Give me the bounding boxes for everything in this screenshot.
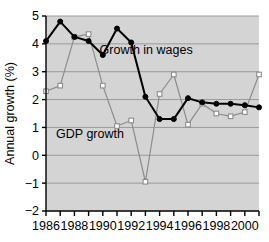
data-point (228, 101, 233, 106)
y-tick-label-0: 0 (32, 149, 39, 163)
y-tick-label-3: 3 (32, 65, 39, 79)
data-point (86, 32, 91, 37)
y-tick-label-5: 5 (32, 9, 39, 23)
data-point (257, 105, 262, 110)
y-tick-label-1: 1 (32, 121, 39, 135)
y-tick-group: −2−1012345 (25, 9, 46, 218)
chart-figure: −2−1012345 19861988199019921994199619982… (0, 0, 269, 242)
data-point (172, 72, 177, 77)
data-point (200, 100, 205, 105)
data-point (171, 117, 176, 122)
series-label-gdp-growth: GDP growth (56, 127, 124, 141)
data-point (214, 101, 219, 106)
data-point (243, 110, 248, 115)
x-tick-label-1996: 1996 (174, 219, 202, 233)
x-tick-label-1986: 1986 (32, 219, 60, 233)
data-point (58, 19, 63, 24)
x-tick-group: 19861988199019921994199619982000 (32, 211, 259, 233)
y-tick-label-2: 2 (32, 93, 39, 107)
data-point (143, 179, 148, 184)
series-label-growth-in-wages: Growth in wages (100, 43, 193, 57)
x-tick-label-1994: 1994 (146, 219, 174, 233)
data-point (72, 34, 77, 39)
line-chart: −2−1012345 19861988199019921994199619982… (0, 0, 269, 242)
data-point (101, 83, 106, 88)
data-point (157, 92, 162, 97)
x-tick-label-2000: 2000 (231, 219, 259, 233)
y-tick-label-4: 4 (32, 37, 39, 51)
data-point (115, 26, 120, 31)
data-point (58, 83, 63, 88)
y-tick-label--1: −1 (25, 177, 39, 191)
y-tick-label--2: −2 (25, 204, 39, 218)
x-tick-label-1988: 1988 (60, 219, 88, 233)
data-point (157, 117, 162, 122)
data-point (257, 72, 262, 77)
data-point (86, 39, 91, 44)
data-point (228, 114, 233, 119)
data-point (143, 94, 148, 99)
y-axis-label: Annual growth (%) (3, 62, 17, 165)
data-point (186, 122, 191, 127)
x-tick-label-1990: 1990 (89, 219, 117, 233)
x-tick-label-1998: 1998 (202, 219, 230, 233)
data-point (186, 96, 191, 101)
data-point (129, 118, 134, 123)
x-tick-label-1992: 1992 (117, 219, 145, 233)
data-point (242, 103, 247, 108)
data-point (214, 111, 219, 116)
